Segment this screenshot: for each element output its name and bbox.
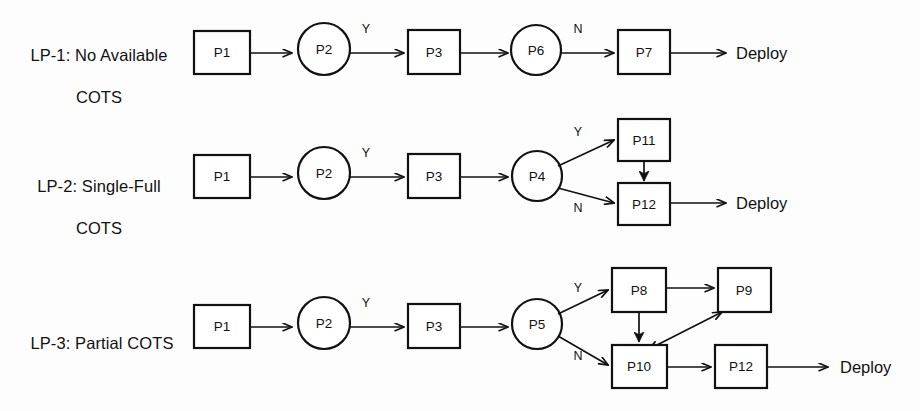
node-lp3-p8-label: P8	[631, 283, 648, 298]
diagram-canvas: LP-1: No Available COTS LP-2: Single-Ful…	[0, 0, 920, 411]
node-lp2-p2-label: P2	[316, 166, 333, 181]
node-lp3-p12[interactable]: P12	[715, 345, 767, 388]
node-lp3-p10[interactable]: P10	[612, 345, 667, 388]
lane-lp3: P1 P2 Y P3 P5 Y N	[194, 268, 892, 388]
node-lp2-p12-label: P12	[632, 197, 656, 212]
terminal-lp1-deploy: Deploy	[736, 44, 788, 62]
edge-label-lp3-p2-p3: Y	[362, 296, 371, 310]
node-lp1-p3-label: P3	[426, 45, 443, 60]
terminal-lp2-deploy: Deploy	[736, 194, 788, 212]
node-lp1-p7[interactable]: P7	[618, 30, 670, 74]
node-lp3-p9[interactable]: P9	[718, 268, 771, 312]
node-lp3-p12-label: P12	[729, 359, 753, 374]
node-lp1-p6-label: P6	[528, 43, 545, 58]
edge-label-lp2-p2-p3: Y	[362, 146, 371, 160]
node-lp3-p2-label: P2	[316, 316, 333, 331]
node-lp1-p2[interactable]: P2	[298, 23, 350, 75]
node-lp2-p11-label: P11	[632, 133, 655, 148]
node-lp1-p1-label: P1	[214, 45, 231, 60]
node-lp1-p1[interactable]: P1	[194, 31, 250, 74]
node-lp3-p8[interactable]: P8	[612, 268, 666, 312]
node-lp3-p3-label: P3	[426, 319, 443, 334]
node-lp1-p7-label: P7	[636, 45, 653, 60]
node-lp2-p4-label: P4	[529, 169, 546, 184]
node-lp1-p6[interactable]: P6	[511, 25, 561, 75]
edge-label-lp1-p6-p7: N	[573, 22, 582, 36]
edge-label-lp1-p2-p3: Y	[362, 22, 371, 36]
node-lp3-p5[interactable]: P5	[512, 299, 562, 349]
node-lp1-p2-label: P2	[316, 42, 333, 57]
flow-diagram: P1 P2 Y P3 P6 N P7	[0, 0, 920, 411]
node-lp2-p12[interactable]: P12	[618, 183, 670, 225]
edge-label-lp3-p5-p8: Y	[574, 281, 583, 295]
node-lp3-p2[interactable]: P2	[298, 297, 350, 349]
node-lp2-p3[interactable]: P3	[408, 154, 460, 198]
edge-label-lp2-p4-p12: N	[573, 201, 582, 215]
node-lp3-p1[interactable]: P1	[194, 305, 250, 348]
node-lp3-p9-label: P9	[736, 283, 753, 298]
node-lp3-p5-label: P5	[529, 317, 546, 332]
lane-lp2: P1 P2 Y P3 P4 Y N	[194, 119, 788, 225]
node-lp2-p1[interactable]: P1	[194, 155, 250, 198]
node-lp3-p10-label: P10	[627, 359, 651, 374]
node-lp3-p1-label: P1	[214, 319, 231, 334]
node-lp2-p4[interactable]: P4	[512, 151, 562, 201]
terminal-lp3-deploy: Deploy	[840, 358, 892, 376]
node-lp1-p3[interactable]: P3	[408, 30, 460, 74]
node-lp2-p3-label: P3	[426, 169, 443, 184]
node-lp2-p1-label: P1	[214, 169, 231, 184]
edge-label-lp3-p5-p10: N	[573, 349, 582, 363]
node-lp3-p3[interactable]: P3	[408, 304, 460, 348]
lane-lp1: P1 P2 Y P3 P6 N P7	[194, 22, 788, 75]
edge-label-lp2-p4-p11: Y	[574, 125, 583, 139]
node-lp2-p11[interactable]: P11	[618, 119, 670, 161]
node-lp2-p2[interactable]: P2	[298, 147, 350, 199]
